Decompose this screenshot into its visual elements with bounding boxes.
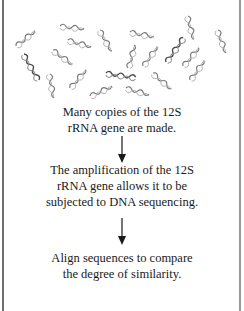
step-many-copies: Many copies of the 12S rRNA gene are mad… <box>8 104 236 136</box>
dna-helix-icon <box>68 68 88 90</box>
step-text-line: subjected to DNA sequencing. <box>0 194 244 210</box>
step-text-line: Align sequences to compare <box>0 250 244 266</box>
dna-helix-icon <box>21 53 41 82</box>
down-arrow-icon <box>117 218 127 246</box>
dna-helix-icon <box>129 30 154 40</box>
dna-helix-icon <box>141 45 160 68</box>
down-arrow-icon <box>117 136 127 164</box>
dna-helix-icon <box>97 29 114 53</box>
dna-helix-icon <box>184 15 196 40</box>
dna-helix-icon <box>46 74 56 99</box>
dna-helix-icon <box>214 29 228 54</box>
dna-helix-icon <box>89 84 113 100</box>
dna-helix-icon <box>188 59 207 82</box>
step-text-line: The amplification of the 12S <box>0 162 244 178</box>
step-text-line: the degree of similarity. <box>0 266 244 282</box>
dna-helix-icon <box>67 38 92 50</box>
dna-helix-icon <box>105 71 136 81</box>
step-amplification: The amplification of the 12S rRNA gene a… <box>0 162 244 210</box>
dna-helix-icon <box>150 71 172 91</box>
step-text-line: rRNA gene allows it to be <box>0 178 244 194</box>
dna-helix-icon <box>126 44 138 69</box>
step-text-line: Many copies of the 12S <box>8 104 236 120</box>
dna-helix-icon <box>125 86 150 98</box>
step-align-sequences: Align sequences to compare the degree of… <box>0 250 244 282</box>
dna-helix-icon <box>164 36 186 64</box>
dna-helix-icon <box>60 24 84 32</box>
dna-helix-icon <box>51 48 74 67</box>
step-text-line: rRNA gene are made. <box>8 120 236 136</box>
dna-copies-illustration <box>8 8 236 103</box>
diagram-panel: Many copies of the 12S rRNA gene are mad… <box>0 0 244 311</box>
dna-helix-icon <box>15 29 37 49</box>
